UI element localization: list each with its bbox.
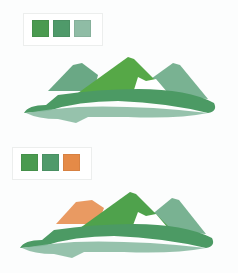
color-palette-2 xyxy=(12,147,92,180)
swatch xyxy=(53,20,70,37)
swatch xyxy=(74,20,91,37)
color-palette-1 xyxy=(23,13,103,46)
swatch xyxy=(63,154,80,171)
mountain-illustration-1 xyxy=(18,55,224,127)
swatch xyxy=(42,154,59,171)
mountain-illustration-2 xyxy=(14,190,220,262)
swatch xyxy=(21,154,38,171)
swatch xyxy=(32,20,49,37)
